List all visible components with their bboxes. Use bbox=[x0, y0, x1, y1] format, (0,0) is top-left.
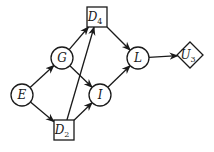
node-label-subscript: 2 bbox=[64, 130, 69, 139]
node-u3: U3 bbox=[177, 42, 203, 68]
node-e: E bbox=[11, 84, 33, 106]
edge-e-to-g bbox=[30, 65, 54, 87]
node-label: E bbox=[17, 88, 27, 102]
node-i: I bbox=[89, 84, 111, 106]
node-label: I bbox=[97, 88, 103, 102]
edge-e-to-d2 bbox=[30, 102, 54, 122]
node-d4: D4 bbox=[87, 7, 107, 27]
node-label-main: G bbox=[57, 51, 67, 65]
node-label: G bbox=[57, 51, 67, 65]
node-label-main: D bbox=[87, 10, 98, 24]
edge-d2-to-i bbox=[74, 103, 92, 121]
edge-l-to-u3 bbox=[149, 56, 178, 58]
edges bbox=[30, 27, 178, 122]
node-label-subscript: 4 bbox=[97, 17, 102, 26]
node-g: G bbox=[51, 47, 73, 69]
node-d2: D2 bbox=[54, 120, 74, 140]
node-l: L bbox=[127, 47, 149, 69]
node-label-main: L bbox=[133, 51, 142, 65]
node-label-main: E bbox=[17, 88, 27, 102]
edge-g-to-d4 bbox=[69, 27, 88, 50]
node-label-main: D bbox=[54, 123, 65, 137]
node-label-subscript: 3 bbox=[191, 55, 196, 64]
edge-d4-to-l bbox=[107, 27, 130, 50]
edge-i-to-l bbox=[108, 66, 130, 88]
edge-d2-to-d4 bbox=[67, 27, 94, 120]
nodes: EGILD4D2U3 bbox=[11, 7, 203, 140]
influence-diagram: EGILD4D2U3 bbox=[0, 0, 214, 152]
edge-g-to-i bbox=[70, 66, 92, 88]
node-label: L bbox=[133, 51, 142, 65]
node-label-main: I bbox=[97, 88, 103, 102]
